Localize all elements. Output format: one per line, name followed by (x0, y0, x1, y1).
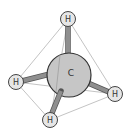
hydrogen-atom-top: H (61, 12, 76, 27)
hydrogen-label: H (65, 15, 71, 24)
bond-right (88, 83, 109, 92)
hydrogen-atom-bottom: H (43, 113, 58, 128)
bond-left (22, 74, 50, 81)
methane-diagram: C H H H H (0, 0, 134, 137)
carbon-label: C (68, 68, 74, 78)
hydrogen-atom-left: H (9, 75, 24, 90)
hydrogen-label: H (13, 78, 19, 87)
carbon-atom: C (47, 53, 91, 97)
hydrogen-label: H (112, 90, 118, 99)
hydrogen-label: H (47, 116, 53, 125)
hydrogen-atom-right: H (108, 87, 123, 102)
